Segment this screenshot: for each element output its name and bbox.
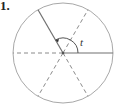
radius-300	[63, 53, 88, 96]
radius-240	[38, 53, 63, 96]
radius-60	[63, 10, 88, 53]
radius-120	[38, 10, 63, 53]
angle-label: t	[80, 36, 84, 48]
center-point	[62, 52, 65, 55]
circle-diagram: t	[0, 0, 114, 106]
